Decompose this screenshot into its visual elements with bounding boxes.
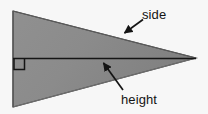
side-label: side bbox=[142, 8, 166, 21]
diagram-canvas bbox=[0, 0, 208, 114]
height-label: height bbox=[121, 93, 157, 106]
geometry-diagram: side height bbox=[0, 0, 208, 114]
